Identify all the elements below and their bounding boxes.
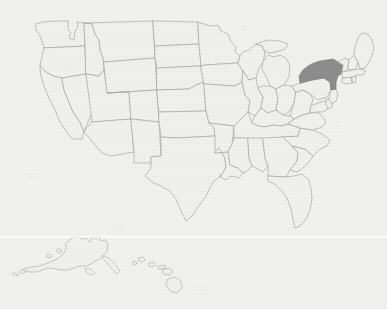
state-SD[interactable]: [155, 44, 201, 68]
alaska-inset: [12, 236, 120, 276]
state-HI-oahu[interactable]: [149, 262, 156, 267]
state-AK[interactable]: [23, 236, 108, 272]
state-FL[interactable]: [268, 174, 312, 228]
state-HI-maui[interactable]: [162, 268, 173, 275]
alaska-island-a[interactable]: [47, 254, 52, 258]
state-MN[interactable]: [198, 22, 240, 66]
state-HI-bigisland[interactable]: [166, 277, 182, 293]
usa-map-svg: [0, 0, 387, 309]
state-IA[interactable]: [201, 63, 243, 86]
state-OK[interactable]: [159, 111, 215, 138]
alaska-kodiak[interactable]: [86, 268, 95, 275]
state-HI-molokai[interactable]: [158, 265, 166, 269]
alaska-island-b[interactable]: [57, 249, 62, 253]
state-ND[interactable]: [153, 21, 199, 46]
state-HI-niihau[interactable]: [133, 261, 137, 265]
state-NJ[interactable]: [329, 89, 338, 104]
state-HI-kauai[interactable]: [139, 257, 145, 262]
alaska-panhandle[interactable]: [103, 256, 120, 274]
hawaii-inset: [133, 257, 182, 293]
state-WA[interactable]: [36, 21, 85, 48]
state-AZ[interactable]: [84, 119, 134, 156]
us-states-map: United States Map Outline map of the Uni…: [0, 0, 387, 309]
alaska-aleutian-2[interactable]: [12, 273, 19, 276]
state-WY[interactable]: [104, 58, 157, 93]
